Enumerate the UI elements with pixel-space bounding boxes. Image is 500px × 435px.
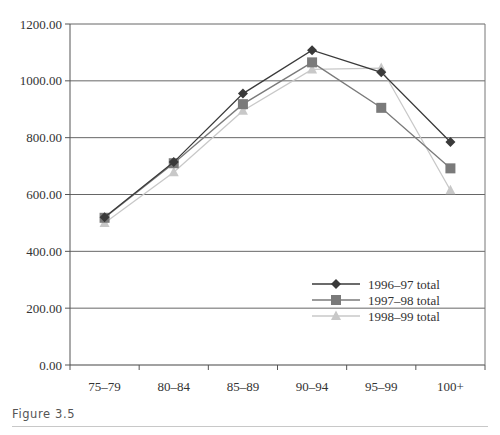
x-axis-labels: 75–7980–8485–8990–9495–99100+	[88, 379, 464, 394]
x-tick-label: 100+	[437, 379, 464, 394]
gridlines	[70, 24, 485, 308]
legend-label: 1996–97 total	[368, 277, 440, 292]
y-axis-labels: 0.00200.00400.00600.00800.001000.001200.…	[20, 17, 62, 373]
x-tick-label: 85–89	[227, 379, 260, 394]
legend-label: 1997–98 total	[368, 293, 440, 308]
square-marker-icon	[307, 57, 317, 67]
x-tick-label: 95–99	[365, 379, 398, 394]
legend-label: 1998–99 total	[368, 309, 440, 324]
series-line	[105, 68, 451, 223]
y-tick-label: 1200.00	[20, 17, 62, 32]
series-line	[105, 50, 451, 217]
square-marker-icon	[331, 295, 341, 305]
line-chart: 0.00200.00400.00600.00800.001000.001200.…	[0, 0, 500, 435]
legend-item: 1998–99 total	[312, 309, 440, 324]
y-tick-label: 1000.00	[20, 73, 62, 88]
y-tick-label: 200.00	[26, 301, 62, 316]
caption-divider	[12, 426, 488, 427]
data-series	[100, 45, 456, 227]
triangle-marker-icon	[331, 311, 341, 321]
x-tick-label: 90–94	[296, 379, 329, 394]
x-tick-label: 75–79	[88, 379, 121, 394]
x-tick-label: 80–84	[158, 379, 191, 394]
y-tick-label: 800.00	[26, 130, 62, 145]
figure-caption: Figure 3.5	[12, 407, 75, 421]
y-tick-label: 600.00	[26, 187, 62, 202]
triangle-marker-icon	[445, 185, 455, 195]
square-marker-icon	[238, 99, 248, 109]
y-tick-label: 400.00	[26, 244, 62, 259]
legend: 1996–97 total1997–98 total1998–99 total	[312, 277, 440, 324]
series-1998-99-total	[100, 63, 456, 227]
square-marker-icon	[376, 103, 386, 113]
series-1997-98-total	[100, 57, 456, 222]
legend-item: 1997–98 total	[312, 293, 440, 308]
diamond-marker-icon	[307, 45, 317, 55]
series-1996-97-total	[100, 45, 456, 222]
diamond-marker-icon	[331, 279, 341, 289]
legend-item: 1996–97 total	[312, 277, 440, 292]
square-marker-icon	[445, 163, 455, 173]
triangle-marker-icon	[169, 167, 179, 177]
y-tick-label: 0.00	[39, 358, 62, 373]
